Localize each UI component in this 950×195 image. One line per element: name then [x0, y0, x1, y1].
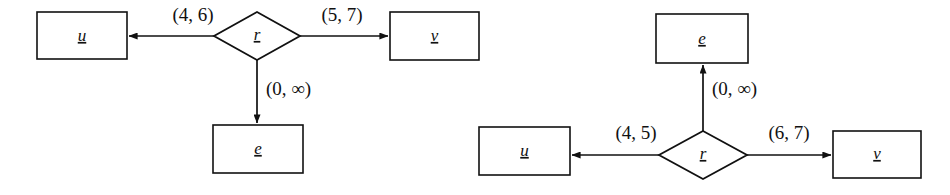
left-entity-v-label: v — [431, 26, 439, 45]
right-entity-v-label: v — [873, 144, 881, 163]
right-entity-u[interactable]: u — [479, 127, 570, 175]
left-edge-r-to-e: (0, ∞) — [257, 60, 311, 123]
right-edge-r-to-e-label: (0, ∞) — [712, 78, 757, 100]
right-entity-v[interactable]: v — [833, 131, 921, 178]
right-edge-r-to-v-label: (6, 7) — [768, 122, 809, 144]
right-er-diagram: e u v r (0, ∞) (4, 5) (6, — [479, 14, 921, 179]
left-entity-e[interactable]: e — [213, 125, 303, 173]
left-edge-r-to-u-label: (4, 6) — [172, 4, 213, 26]
right-edge-r-to-e: (0, ∞) — [703, 65, 757, 131]
left-er-diagram: u v e r (4, 6) (5, 7) (0, — [37, 4, 479, 173]
left-relationship-r-label: r — [254, 25, 261, 44]
right-edge-r-to-u: (4, 5) — [572, 122, 659, 155]
right-relationship-r-label: r — [700, 144, 707, 163]
right-edge-r-to-v: (6, 7) — [747, 122, 831, 155]
left-entity-e-label: e — [254, 139, 262, 158]
right-entity-u-label: u — [520, 141, 529, 160]
left-edge-r-to-v-label: (5, 7) — [321, 4, 362, 26]
left-edge-r-to-u: (4, 6) — [129, 4, 214, 36]
left-edge-r-to-e-label: (0, ∞) — [266, 78, 311, 100]
right-entity-e-label: e — [698, 29, 706, 48]
left-entity-u[interactable]: u — [37, 12, 127, 59]
er-diagram-canvas: u v e r (4, 6) (5, 7) (0, — [0, 0, 950, 195]
right-relationship-r[interactable]: r — [659, 131, 747, 179]
left-entity-u-label: u — [78, 26, 87, 45]
left-edge-r-to-v: (5, 7) — [300, 4, 388, 36]
left-entity-v[interactable]: v — [390, 12, 479, 60]
left-relationship-r[interactable]: r — [214, 12, 300, 60]
right-edge-r-to-u-label: (4, 5) — [615, 122, 656, 144]
right-entity-e[interactable]: e — [656, 14, 748, 63]
